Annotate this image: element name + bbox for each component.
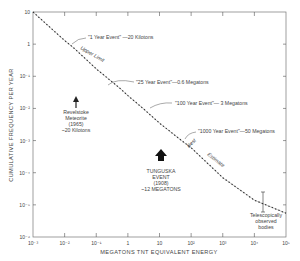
svg-text:~20 Kilotons: ~20 Kilotons bbox=[62, 127, 91, 133]
x-tick-label: 10 bbox=[157, 240, 163, 246]
svg-text:"100 Year Event"— 3 Megatons: "100 Year Event"— 3 Megatons bbox=[175, 100, 248, 106]
svg-text:bodies: bodies bbox=[258, 224, 274, 230]
annotation-telescopic: Telescopically observed bodies bbox=[250, 192, 282, 230]
error-bar-icon bbox=[261, 192, 265, 212]
y-axis-title: CUMULATIVE FREQUENCY PER YEAR bbox=[8, 68, 14, 182]
y-tick-label: 10⁻⁶ bbox=[19, 234, 30, 240]
x-tick-label: 10³ bbox=[219, 240, 227, 246]
x-tick-label: 10² bbox=[188, 240, 196, 246]
chart: 10⁻³10⁻²10⁻¹11010²10³10⁴10⁵10110⁻¹10⁻²10… bbox=[0, 0, 300, 261]
annotation-upper-limit: Upper Limit bbox=[80, 45, 106, 64]
up-arrow-icon bbox=[73, 96, 79, 108]
svg-text:"25 Year Event"—0.6 Megatons: "25 Year Event"—0.6 Megatons bbox=[136, 79, 209, 85]
svg-text:"1000 Year Event"—50 Megatons: "1000 Year Event"—50 Megatons bbox=[198, 128, 275, 134]
x-tick-label: 10⁻² bbox=[60, 240, 71, 246]
annotation-revelstoke: Revelstoke Meteorite (1965) ~20 Kilotons bbox=[62, 96, 91, 133]
x-tick-label: 1 bbox=[126, 240, 129, 246]
svg-text:~12 MEGATONS: ~12 MEGATONS bbox=[141, 186, 181, 192]
y-tick-label: 1 bbox=[27, 41, 30, 47]
y-tick-label: 10 bbox=[24, 9, 30, 15]
x-tick-label: 10⁻³ bbox=[28, 240, 39, 246]
x-tick-label: 10⁴ bbox=[251, 240, 259, 246]
x-tick-label: 10⁵ bbox=[282, 240, 290, 246]
annotation-tunguska: TUNGUSKA EVENT (1908) ~12 MEGATONS bbox=[141, 149, 181, 192]
svg-text:"1 Year Event" —20 Kilotons: "1 Year Event" —20 Kilotons bbox=[88, 34, 154, 40]
y-tick-label: 10⁻¹ bbox=[20, 73, 31, 79]
annotation-1-year-event: "1 Year Event" —20 Kilotons bbox=[72, 34, 154, 44]
y-tick-label: 10⁻³ bbox=[20, 138, 31, 144]
annotation-100-year-event: "100 Year Event"— 3 Megatons bbox=[150, 100, 248, 108]
bold-up-arrow-icon bbox=[155, 149, 167, 161]
y-tick-label: 10⁻⁴ bbox=[19, 170, 30, 176]
x-axis-title: MEGATONS TNT EQUIVALENT ENERGY bbox=[100, 249, 217, 255]
x-tick-label: 10⁻¹ bbox=[91, 240, 102, 246]
annotation-25-year-event: "25 Year Event"—0.6 Megatons bbox=[108, 79, 209, 85]
y-tick-label: 10⁻² bbox=[20, 105, 31, 111]
annotation-1000-year-event: "1000 Year Event"—50 Megatons bbox=[185, 128, 275, 139]
y-tick-label: 10⁻⁵ bbox=[19, 202, 30, 208]
annotation-best: Best bbox=[185, 137, 197, 149]
